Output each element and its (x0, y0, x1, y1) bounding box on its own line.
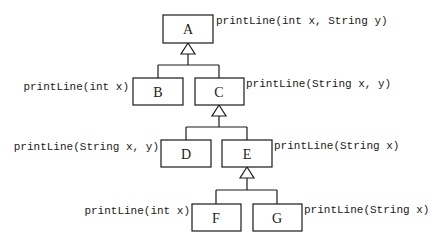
class-f-method: printLine(int x) (84, 205, 190, 217)
class-g-name: G (272, 211, 282, 226)
class-d: D printLine(String x, y) (14, 140, 211, 167)
class-diagram: A printLine(int x, String y) B printLine… (0, 0, 442, 240)
generalization-arrow-icon (181, 43, 195, 54)
class-g-method: printLine(String x) (304, 204, 429, 216)
class-c-name: C (214, 85, 223, 100)
class-b: B printLine(int x) (23, 78, 183, 105)
class-a: A printLine(int x, String y) (163, 15, 388, 43)
class-e: E printLine(String x) (222, 140, 399, 167)
class-f: F printLine(int x) (84, 204, 241, 231)
class-c-method: printLine(String x, y) (246, 78, 391, 90)
class-a-method: printLine(int x, String y) (216, 15, 388, 27)
class-g: G printLine(String x) (253, 204, 429, 231)
class-a-name: A (183, 22, 194, 37)
class-d-method: printLine(String x, y) (14, 141, 159, 153)
class-b-method: printLine(int x) (23, 81, 129, 93)
generalization-arrow-icon (240, 167, 254, 178)
inheritance-c (186, 105, 247, 140)
inheritance-e (216, 167, 277, 204)
class-e-method: printLine(String x) (274, 140, 399, 152)
class-e-name: E (243, 147, 252, 162)
class-f-name: F (212, 211, 220, 226)
class-c: C printLine(String x, y) (195, 78, 391, 105)
class-d-name: D (181, 147, 191, 162)
class-b-name: B (153, 85, 162, 100)
inheritance-a (158, 43, 219, 78)
generalization-arrow-icon (212, 105, 226, 116)
